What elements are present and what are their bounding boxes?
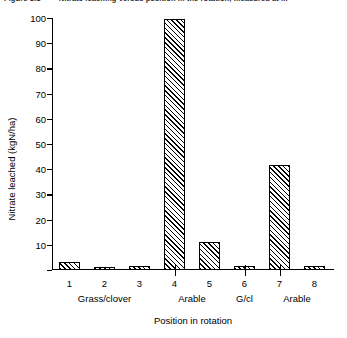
bar-series: [52, 18, 332, 270]
bar: [59, 262, 80, 270]
group-separator: [245, 265, 246, 276]
y-tick-label: 30: [35, 189, 46, 200]
x-tick-label: 2: [102, 278, 107, 289]
x-tick-label: 3: [137, 278, 142, 289]
x-tick-label: 4: [172, 278, 177, 289]
x-axis-title: Position in rotation: [52, 315, 334, 326]
y-tick-label: 100: [30, 13, 46, 24]
figure-caption-label: Figure 3.1: [4, 0, 40, 3]
y-tick-label: 40: [35, 164, 46, 175]
group-label: Arable: [178, 293, 205, 304]
bar: [269, 165, 290, 270]
y-tick-label: 20: [35, 214, 46, 225]
x-tick-label: 7: [277, 278, 282, 289]
group-label: G/cl: [236, 293, 253, 304]
chart-figure: Figure 3.1 Nitrate leaching versus posit…: [0, 0, 347, 338]
x-tick-label: 8: [312, 278, 317, 289]
y-tick-label: 90: [35, 38, 46, 49]
x-tick-label: 1: [67, 278, 72, 289]
group-label: Grass/clover: [78, 293, 131, 304]
x-tick-label: 6: [242, 278, 247, 289]
figure-caption-text: Nitrate leaching versus position in the …: [59, 0, 288, 3]
group-separator: [175, 265, 176, 276]
plot-area: 102030405060708090100: [52, 18, 332, 270]
y-tick-label: 70: [35, 88, 46, 99]
group-label: Arable: [283, 293, 310, 304]
y-tick-label: 10: [35, 239, 46, 250]
y-tick-label: 80: [35, 63, 46, 74]
bar: [164, 19, 185, 270]
x-axis-area: 12345678 Grass/cloverArableG/clArable Po…: [52, 270, 334, 338]
figure-caption: Figure 3.1 Nitrate leaching versus posit…: [0, 0, 347, 6]
y-tick-label: 50: [35, 139, 46, 150]
y-tick-label: 60: [35, 113, 46, 124]
x-tick-label: 5: [207, 278, 212, 289]
bar: [199, 242, 220, 270]
y-axis-title: Nitrate leached (kgN/ha): [6, 94, 17, 244]
group-separator: [280, 265, 281, 276]
